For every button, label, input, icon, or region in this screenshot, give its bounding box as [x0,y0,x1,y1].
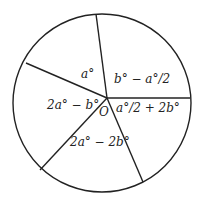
center-label: O [99,106,109,118]
sector-label-2a-minus-2b: 2a° − 2b° [70,136,130,148]
sector-label-b-minus-half-a: b° − a°/2 [114,73,170,85]
radius-left [26,63,107,98]
sector-label-half-a-plus-2b: a°/2 + 2b° [116,102,180,114]
sector-label-a: a° [81,68,94,80]
radius-top [96,14,107,98]
sector-label-2a-minus-b: 2a° − b° [47,99,99,111]
